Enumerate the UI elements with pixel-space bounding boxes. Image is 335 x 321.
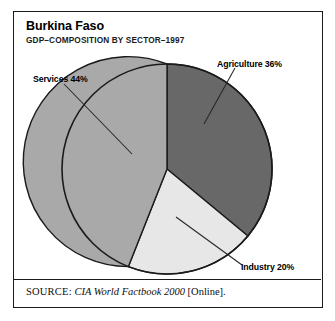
source-work-title: CIA World Factbook 2000 bbox=[74, 286, 185, 297]
source-divider bbox=[14, 279, 321, 280]
source-line: SOURCE: CIA World Factbook 2000 [Online]… bbox=[26, 286, 226, 297]
slice-label-services: Services 44% bbox=[33, 74, 88, 84]
slice-label-industry: Industry 20% bbox=[241, 262, 294, 272]
source-suffix: [Online]. bbox=[188, 286, 226, 297]
plot-area: Services 44% Agriculture 36% Industry 20… bbox=[14, 12, 324, 280]
slice-label-agriculture: Agriculture 36% bbox=[217, 59, 282, 69]
figure-container: Burkina Faso GDP–COMPOSITION BY SECTOR–1… bbox=[13, 11, 323, 308]
source-label: SOURCE: bbox=[26, 286, 72, 297]
pie-chart bbox=[14, 12, 324, 280]
